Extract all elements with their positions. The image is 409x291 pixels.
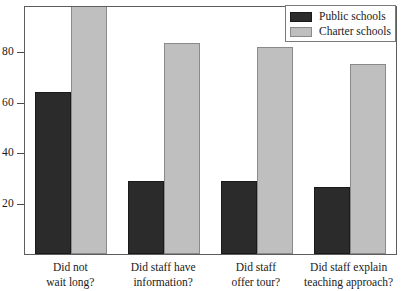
- legend-swatch-icon-public-schools: [290, 12, 312, 22]
- plot-area: [24, 6, 397, 255]
- bar-public-did-not-wait-long[interactable]: [35, 92, 71, 254]
- y-tick-label-60: 60: [2, 97, 14, 109]
- bar-public-did-staff-explain-teaching-approach[interactable]: [314, 187, 350, 254]
- bar-charter-did-staff-offer-tour[interactable]: [257, 47, 293, 254]
- legend-swatch-icon-charter-schools: [290, 27, 312, 37]
- bar-chart-figure: 80 60 40 20 Public schools Charter schoo…: [0, 0, 409, 291]
- x-label-did-not-wait-long: Did not wait long?: [18, 260, 123, 290]
- y-tick-label-20: 20: [2, 198, 14, 210]
- x-label-line2-3: teaching approach?: [296, 275, 401, 290]
- y-axis: 80 60 40 20: [0, 0, 24, 291]
- bar-charter-did-not-wait-long[interactable]: [71, 6, 107, 254]
- x-label-did-staff-offer-tour: Did staff offer tour?: [204, 260, 309, 290]
- legend-item-public-schools[interactable]: Public schools: [290, 9, 391, 24]
- x-label-line1-3: Did staff explain: [310, 261, 387, 273]
- bar-public-did-staff-offer-tour[interactable]: [221, 181, 257, 254]
- y-tick-label-40: 40: [2, 147, 14, 159]
- x-label-line1-0: Did not: [53, 261, 88, 273]
- bar-charter-did-staff-explain-teaching-approach[interactable]: [350, 64, 386, 254]
- x-label-line2-1: information?: [111, 275, 216, 290]
- x-label-did-staff-explain-teaching-approach: Did staff explain teaching approach?: [296, 260, 401, 290]
- x-axis-category-labels: Did not wait long? Did staff have inform…: [24, 258, 397, 291]
- x-label-line2-2: offer tour?: [204, 275, 309, 290]
- legend-item-charter-schools[interactable]: Charter schools: [290, 24, 391, 39]
- x-label-did-staff-have-information: Did staff have information?: [111, 260, 216, 290]
- legend-label-charter-schools: Charter schools: [319, 26, 391, 38]
- x-label-line1-1: Did staff have: [131, 261, 196, 273]
- x-label-line2-0: wait long?: [18, 275, 123, 290]
- bar-charter-did-staff-have-information[interactable]: [164, 43, 200, 254]
- x-label-line1-2: Did staff: [236, 261, 276, 273]
- legend-label-public-schools: Public schools: [319, 11, 386, 23]
- bar-public-did-staff-have-information[interactable]: [128, 181, 164, 254]
- y-tick-label-80: 80: [2, 46, 14, 58]
- legend: Public schools Charter schools: [285, 5, 396, 42]
